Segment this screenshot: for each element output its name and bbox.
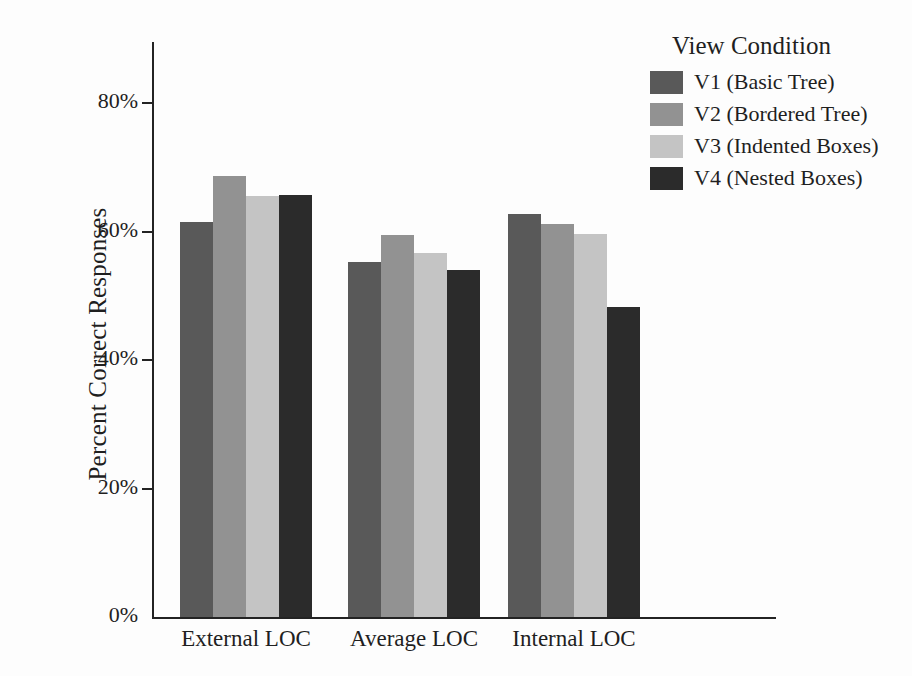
y-axis-tick-label-text: 80% [52, 88, 138, 114]
bar [246, 196, 279, 617]
bar [414, 253, 447, 617]
bar [279, 195, 312, 617]
bar [348, 262, 381, 617]
y-axis-tick-label: 0% [42, 602, 138, 626]
bar-chart: Percent Correct Responses 0%20%40%60%80%… [0, 0, 912, 676]
y-axis-tick-label-text: 40% [52, 345, 138, 371]
legend-item[interactable]: V4 (Nested Boxes) [650, 162, 900, 194]
bar [213, 176, 246, 617]
bar-group [348, 42, 480, 617]
legend-items: V1 (Basic Tree)V2 (Bordered Tree)V3 (Ind… [650, 66, 900, 194]
bar-group [180, 42, 312, 617]
legend-item[interactable]: V2 (Bordered Tree) [650, 98, 900, 130]
x-axis-label: Internal LOC [464, 626, 684, 652]
legend-swatch-icon [650, 71, 683, 94]
bar-group [508, 42, 640, 617]
y-axis-tick-label: 60% [42, 217, 138, 241]
y-axis-tick-label-text: 20% [52, 474, 138, 500]
legend-item-label: V1 (Basic Tree) [694, 69, 835, 95]
legend-item-label: V3 (Indented Boxes) [694, 133, 879, 159]
y-axis-tick-label-text: 60% [52, 217, 138, 243]
bar [508, 214, 541, 617]
legend-swatch-icon [650, 167, 683, 190]
x-axis-line [152, 617, 776, 619]
y-axis-tick-label: 20% [42, 474, 138, 498]
legend-item-label: V4 (Nested Boxes) [694, 165, 863, 191]
bar [607, 307, 640, 617]
legend-title: View Condition [672, 32, 900, 60]
bar [381, 235, 414, 617]
legend-item[interactable]: V3 (Indented Boxes) [650, 130, 900, 162]
y-axis-tick-label-text: 0% [52, 602, 138, 628]
legend-item[interactable]: V1 (Basic Tree) [650, 66, 900, 98]
y-axis-tick-label: 80% [42, 88, 138, 112]
bar [574, 234, 607, 617]
y-axis-tick-label: 40% [42, 345, 138, 369]
bar [180, 222, 213, 617]
legend: View Condition V1 (Basic Tree)V2 (Border… [650, 32, 900, 194]
legend-swatch-icon [650, 103, 683, 126]
bar [541, 224, 574, 617]
legend-item-label: V2 (Bordered Tree) [694, 101, 868, 127]
legend-swatch-icon [650, 135, 683, 158]
bar [447, 270, 480, 617]
